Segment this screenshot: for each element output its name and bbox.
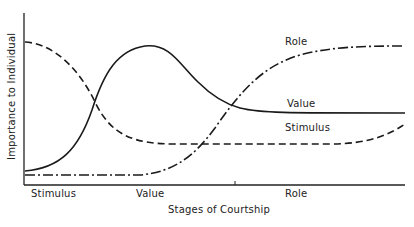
courtship-stages-chart: Role Value Stimulus Stimulus Value Role … xyxy=(0,0,414,227)
x-tick-label-value: Value xyxy=(136,188,164,199)
curve-label-stimulus: Stimulus xyxy=(285,122,330,133)
x-axis-title: Stages of Courtship xyxy=(168,204,270,215)
value-curve xyxy=(25,46,405,171)
x-tick-label-stimulus: Stimulus xyxy=(31,188,76,199)
x-tick-label-role: Role xyxy=(285,188,307,199)
y-axis-title: Importance to Individual xyxy=(6,33,17,160)
curve-label-value: Value xyxy=(287,98,315,109)
curve-label-role: Role xyxy=(285,36,307,47)
role-curve xyxy=(25,46,405,175)
